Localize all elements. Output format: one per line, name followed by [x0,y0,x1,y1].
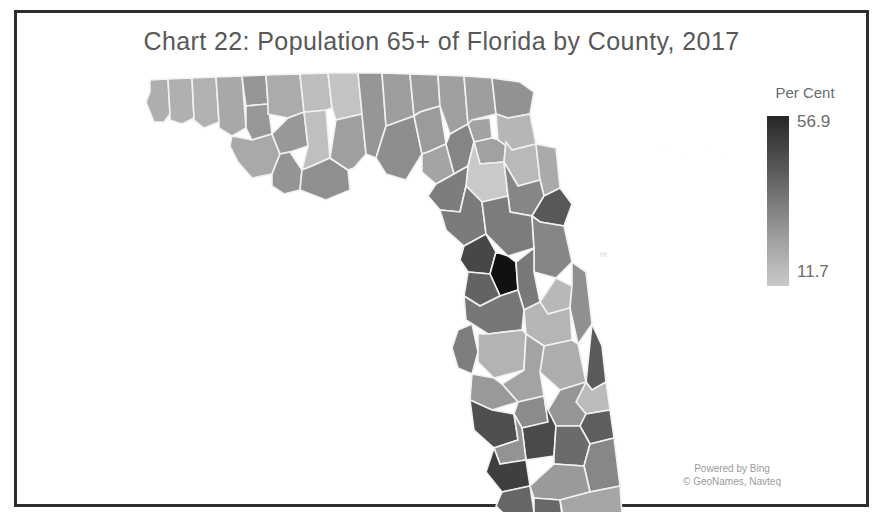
map-svg [120,62,660,512]
chart-image: Chart 22: Population 65+ of Florida by C… [0,0,883,519]
legend: Per Cent 56.9 11.7 [749,84,861,304]
county-indian-river [586,324,606,390]
county-volusia [532,216,572,278]
county-osceola [540,340,586,390]
county-calhoun [272,112,308,154]
attribution-powered-by: Powered by Bing [632,462,832,475]
county-wakulla [330,114,366,170]
county-pinellas [452,324,478,374]
county-holmes [242,75,268,106]
map-faint-label: ht [600,250,607,259]
county-escambia [146,79,170,122]
legend-max-value: 56.9 [797,112,830,132]
county-baker [464,76,496,124]
county-hillsborough [478,330,526,378]
legend-min-value: 11.7 [797,262,829,282]
county-nassau [492,78,534,118]
county-santa-rosa [168,78,194,124]
attribution-data-sources: © GeoNames, Navteq [632,475,832,488]
county-brevard [570,262,592,344]
county-okaloosa [192,77,219,128]
county-gadsden [300,73,332,112]
county-walton [216,76,246,136]
county-leon [328,73,362,120]
map-attribution: Powered by Bing © GeoNames, Navteq [632,462,832,488]
legend-title: Per Cent [749,84,861,101]
page-title: Chart 22: Population 65+ of Florida by C… [0,27,883,56]
florida-choropleth-map [120,62,660,512]
county-palm-beach [584,438,620,492]
county-jackson [266,74,304,118]
legend-gradient-bar [767,116,789,286]
